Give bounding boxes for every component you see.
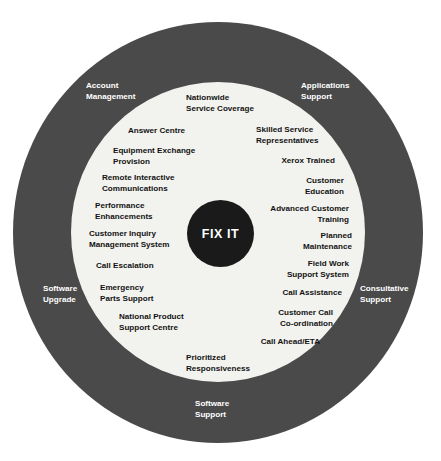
inner-label-prioritized-responsiveness: Prioritized Responsiveness	[186, 353, 250, 374]
inner-label-remote-interactive-communications: Remote Interactive Communications	[102, 173, 174, 194]
core-label: FIX IT	[202, 227, 240, 241]
inner-label-call-ahead-eta: Call Ahead/ETA	[210, 337, 320, 348]
fix-it-wheel-diagram: Account Management Applications Support …	[0, 0, 441, 461]
inner-label-customer-inquiry-management-system: Customer Inquiry Management System	[89, 229, 170, 250]
inner-label-answer-centre: Answer Centre	[128, 126, 185, 137]
outer-label-software-support: Software Support	[195, 399, 229, 420]
inner-label-nationwide-service-coverage: Nationwide Service Coverage	[186, 93, 254, 114]
inner-label-emergency-parts-support: Emergency Parts Support	[100, 283, 154, 304]
inner-label-call-assistance: Call Assistance	[228, 288, 342, 299]
inner-label-call-escalation: Call Escalation	[96, 261, 154, 272]
inner-label-national-product-support-centre: National Product Support Centre	[119, 312, 184, 333]
inner-label-skilled-service-representatives: Skilled Service Representatives	[256, 125, 319, 146]
core-circle: FIX IT	[187, 200, 254, 267]
inner-label-field-work-support-system: Field Work Support System	[228, 259, 349, 280]
outer-label-software-upgrade: Software Upgrade	[43, 284, 77, 305]
inner-label-customer-call-co-ordination: Customer Call Co-ordination	[218, 308, 333, 329]
inner-label-equipment-exchange-provision: Equipment Exchange Provision	[113, 146, 195, 167]
outer-label-applications-support: Applications Support	[301, 81, 350, 102]
inner-label-xerox-trained: Xerox Trained	[219, 156, 335, 167]
outer-label-consultative-support: Consultative Support	[360, 284, 409, 305]
inner-label-customer-education: Customer Education	[225, 176, 344, 197]
inner-label-performance-enhancements: Performance Enhancements	[95, 201, 153, 222]
outer-label-account-management: Account Management	[86, 81, 135, 102]
